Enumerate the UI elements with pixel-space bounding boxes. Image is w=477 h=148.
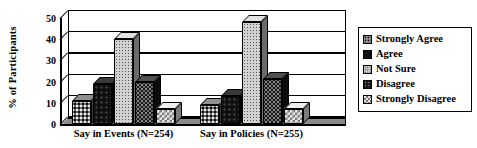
bar <box>200 105 219 124</box>
legend-swatch-icon <box>363 95 372 104</box>
legend-item: Disagree <box>363 77 467 92</box>
bar-series-container <box>0 0 355 148</box>
legend-item-label: Not Sure <box>376 64 416 75</box>
bar <box>242 22 261 124</box>
legend-item: Strongly Agree <box>363 32 467 47</box>
bar-face <box>72 101 91 124</box>
legend-item-label: Strongly Agree <box>376 34 443 45</box>
bar-face <box>135 82 154 124</box>
legend-item-label: Disagree <box>376 79 415 90</box>
bar <box>284 109 303 124</box>
bar-face <box>93 84 112 124</box>
bar-face <box>156 109 175 124</box>
bar-face <box>263 79 282 124</box>
legend-swatch-icon <box>363 35 372 44</box>
bar-face <box>114 39 133 124</box>
x-tick-label: Say in Policies (N=255) <box>200 128 303 139</box>
bar <box>114 39 133 124</box>
bar-face <box>284 109 303 124</box>
legend-item: Not Sure <box>363 62 467 77</box>
legend-swatch-icon <box>363 50 372 59</box>
bar <box>93 84 112 124</box>
bar-face <box>242 22 261 124</box>
legend-item-label: Agree <box>376 49 403 60</box>
legend-swatch-icon <box>363 80 372 89</box>
bar-face <box>200 105 219 124</box>
x-tick-label: Say in Events (N=254) <box>74 128 174 139</box>
chart-legend: Strongly AgreeAgreeNot SureDisagreeStron… <box>358 27 472 112</box>
legend-swatch-icon <box>363 65 372 74</box>
bar <box>263 79 282 124</box>
legend-item-label: Strongly Disagree <box>376 94 456 105</box>
bar <box>72 101 91 124</box>
legend-item: Agree <box>363 47 467 62</box>
bar-face <box>221 96 240 124</box>
chart-figure: % of Participants 01020304050 Say in Eve… <box>0 0 477 148</box>
bar <box>221 96 240 124</box>
legend-item: Strongly Disagree <box>363 92 467 107</box>
chart-plot: % of Participants 01020304050 Say in Eve… <box>0 0 355 148</box>
bar <box>135 82 154 124</box>
bar <box>156 109 175 124</box>
